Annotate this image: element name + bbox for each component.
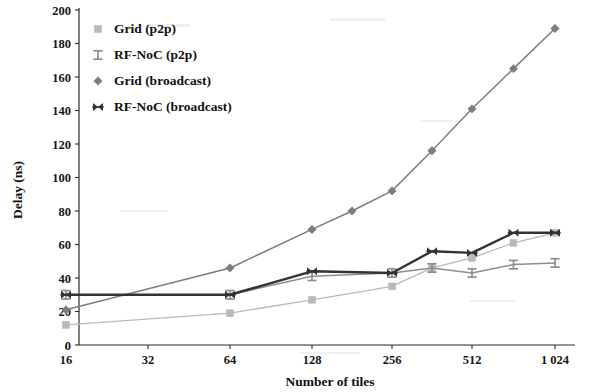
x-tick-label: 32 <box>142 353 155 367</box>
y-axis-title: Delay (ns) <box>10 161 25 219</box>
y-tick-label: 180 <box>52 37 71 51</box>
series-grid-p2p <box>63 229 559 328</box>
x-tick-label: 64 <box>224 353 237 367</box>
x-tick-label: 512 <box>463 353 482 367</box>
legend-marker-icon <box>95 26 102 33</box>
chart-canvas: 020406080100120140160180200 163264128256… <box>0 0 589 392</box>
series-path <box>66 263 555 295</box>
y-tick-label: 140 <box>52 104 71 118</box>
series-layer <box>60 24 560 328</box>
y-tick-label: 60 <box>59 238 72 252</box>
series-path <box>66 233 555 325</box>
legend-item-label: RF-NoC (p2p) <box>114 47 197 62</box>
x-tick-label: 256 <box>383 353 402 367</box>
y-tick-label: 0 <box>65 339 71 353</box>
scan-noise <box>120 18 515 354</box>
legend-marker-icon <box>92 103 103 111</box>
chart-legend: Grid (p2p)RF-NoC (p2p)Grid (broadcast)RF… <box>92 21 231 114</box>
y-tick-label: 80 <box>59 205 72 219</box>
y-tick-label: 200 <box>52 4 71 18</box>
legend-item-grid-broadcast[interactable]: Grid (broadcast) <box>94 73 211 88</box>
x-tick-label: 128 <box>303 353 322 367</box>
x-tick-label: 1 024 <box>541 353 570 367</box>
legend-item-label: Grid (broadcast) <box>114 73 211 88</box>
y-axis-tick-labels: 020406080100120140160180200 <box>52 4 71 353</box>
y-tick-label: 40 <box>59 272 72 286</box>
legend-item-rf-noc-p2p[interactable]: RF-NoC (p2p) <box>93 47 196 62</box>
legend-item-grid-p2p[interactable]: Grid (p2p) <box>95 21 176 36</box>
y-tick-label: 100 <box>52 171 71 185</box>
legend-item-label: RF-NoC (broadcast) <box>114 99 232 114</box>
legend-marker-icon <box>94 77 102 85</box>
legend-item-label: Grid (p2p) <box>114 21 176 36</box>
series-rf-noc-p2p <box>61 258 559 299</box>
delay-vs-tiles-chart: 020406080100120140160180200 163264128256… <box>0 0 589 392</box>
y-tick-label: 160 <box>52 71 71 85</box>
series-rf-noc-broadcast <box>60 229 560 299</box>
x-axis-title: Number of tiles <box>286 374 375 389</box>
series-path <box>66 233 555 295</box>
x-tick-label: 16 <box>60 353 73 367</box>
series-path <box>66 28 555 309</box>
x-axis-tick-labels: 1632641282565121 024 <box>60 353 570 367</box>
legend-marker-icon <box>93 50 102 59</box>
y-tick-label: 120 <box>52 138 71 152</box>
legend-item-rf-noc-broadcast[interactable]: RF-NoC (broadcast) <box>92 99 231 114</box>
